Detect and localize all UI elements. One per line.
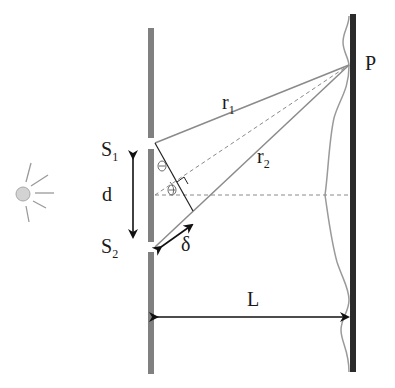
theta-marker-upper xyxy=(158,161,166,171)
label-delta: δ xyxy=(181,233,190,255)
label-s1: S1 xyxy=(101,138,118,164)
slit-barrier xyxy=(148,28,154,374)
perpendicular-line xyxy=(155,143,193,211)
light-source-icon xyxy=(16,163,54,222)
double-slit-diagram: S1 S2 d δ r1 r2 P L xyxy=(0,0,395,388)
label-r2: r2 xyxy=(257,145,270,171)
center-to-p-dashed xyxy=(155,65,349,195)
label-r1: r1 xyxy=(222,91,235,117)
label-s2: S2 xyxy=(101,235,118,261)
label-L: L xyxy=(247,288,259,310)
label-p: P xyxy=(365,52,376,74)
viewing-screen xyxy=(350,14,356,372)
ray-r1 xyxy=(155,65,349,143)
theta-marker-lower xyxy=(168,182,176,195)
label-d: d xyxy=(102,183,112,205)
ray-r2 xyxy=(155,65,349,247)
right-angle-marker xyxy=(177,177,188,184)
